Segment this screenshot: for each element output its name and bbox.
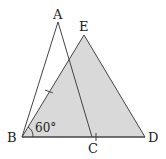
angle-label: 60°	[35, 121, 56, 135]
label-e: E	[79, 19, 89, 34]
label-d: D	[148, 130, 158, 145]
label-b: B	[7, 130, 17, 145]
label-c: C	[88, 141, 98, 156]
geometry-diagram: A E B C D 60°	[0, 0, 166, 159]
label-a: A	[52, 7, 63, 22]
